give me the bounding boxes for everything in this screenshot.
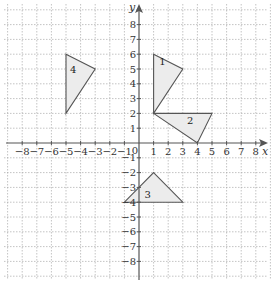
x-tick-label: 2 xyxy=(165,146,171,157)
y-tick-label: −2 xyxy=(121,167,136,178)
x-tick-label: 6 xyxy=(223,146,229,157)
y-tick-label: −3 xyxy=(121,182,136,193)
x-tick-label: 7 xyxy=(238,146,244,157)
y-tick-label: 4 xyxy=(130,78,136,89)
x-tick-label: −4 xyxy=(73,146,88,157)
y-tick-label: −1 xyxy=(121,152,136,163)
x-tick-label: −3 xyxy=(88,146,103,157)
x-axis-label: x xyxy=(262,145,269,158)
x-tick-label: −5 xyxy=(59,146,74,157)
x-tick-label: −7 xyxy=(29,146,44,157)
x-tick-label: 1 xyxy=(150,146,156,157)
y-tick-label: 2 xyxy=(130,108,136,119)
y-tick-label: −8 xyxy=(121,256,136,267)
x-tick-label: −8 xyxy=(15,146,30,157)
y-tick-label: −6 xyxy=(121,226,136,237)
y-tick-label: 8 xyxy=(130,19,136,30)
axes: xy xyxy=(6,1,269,280)
y-tick-label: −7 xyxy=(121,241,136,252)
y-tick-label: −4 xyxy=(121,197,136,208)
x-tick-label: 8 xyxy=(253,146,259,157)
y-tick-label: 5 xyxy=(130,64,136,75)
grid-lines xyxy=(4,4,270,280)
y-tick-label: 1 xyxy=(130,123,136,134)
triangle-4 xyxy=(66,54,95,113)
x-tick-label: 4 xyxy=(194,146,200,157)
triangle-label-2: 2 xyxy=(187,115,193,126)
x-tick-label: −2 xyxy=(102,146,117,157)
x-tick-label: 3 xyxy=(180,146,186,157)
triangle-label-4: 4 xyxy=(70,64,76,75)
triangle-label-3: 3 xyxy=(145,189,151,200)
y-axis-label: y xyxy=(128,1,136,14)
x-tick-label: −6 xyxy=(44,146,59,157)
y-tick-label: 7 xyxy=(130,34,136,45)
triangle-label-1: 1 xyxy=(159,56,165,67)
y-tick-label: 6 xyxy=(130,49,136,60)
x-tick-label: 5 xyxy=(209,146,215,157)
y-tick-label: 3 xyxy=(130,93,136,104)
y-tick-label: −5 xyxy=(121,212,136,223)
triangle-2 xyxy=(154,113,212,143)
coordinate-grid: 1234 xy 0−8−7−6−5−4−3−2−1123456788765432… xyxy=(0,0,271,283)
